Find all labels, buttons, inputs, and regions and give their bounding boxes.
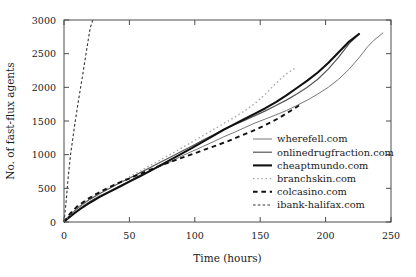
y-tick-labels: 050010001500200025003000 [32, 15, 56, 228]
series-line-colcasino-com [64, 103, 302, 222]
x-tick-label: 200 [317, 230, 335, 241]
y-tick-label: 500 [38, 183, 56, 194]
x-tick-label: 150 [251, 230, 269, 241]
legend-label-cheaptmundo-com: cheaptmundo.com [277, 160, 369, 171]
x-axis-title: Time (hours) [193, 252, 261, 264]
y-axis-title: No. of fast-flux agents [4, 62, 16, 179]
y-tick-label: 2000 [32, 82, 56, 93]
x-tick-label: 100 [186, 230, 204, 241]
legend-label-onlinedrugfraction-com: onlinedrugfraction.com [277, 147, 395, 158]
chart-figure: 050100150200250 050010001500200025003000… [0, 0, 416, 277]
y-tick-label: 1500 [32, 116, 56, 127]
y-tick-label: 1000 [32, 149, 56, 160]
legend-label-wherefell-com: wherefell.com [277, 133, 348, 144]
legend-label-colcasino-com: colcasino.com [277, 186, 348, 197]
x-tick-label: 250 [382, 230, 400, 241]
y-tick-label: 2500 [32, 48, 56, 59]
series-line-branchskin-com [64, 67, 297, 222]
y-tick-label: 0 [50, 217, 56, 228]
chart-legend: wherefell.comonlinedrugfraction.comcheap… [253, 133, 395, 210]
x-tick-label: 50 [123, 230, 135, 241]
y-tick-label: 3000 [32, 15, 56, 26]
x-tick-label: 0 [61, 230, 67, 241]
x-tick-labels: 050100150200250 [61, 230, 400, 241]
legend-label-ibank-halifax-com: ibank-halifax.com [277, 199, 366, 210]
line-chart: 050100150200250 050010001500200025003000… [0, 0, 416, 277]
legend-label-branchskin-com: branchskin.com [277, 173, 357, 184]
